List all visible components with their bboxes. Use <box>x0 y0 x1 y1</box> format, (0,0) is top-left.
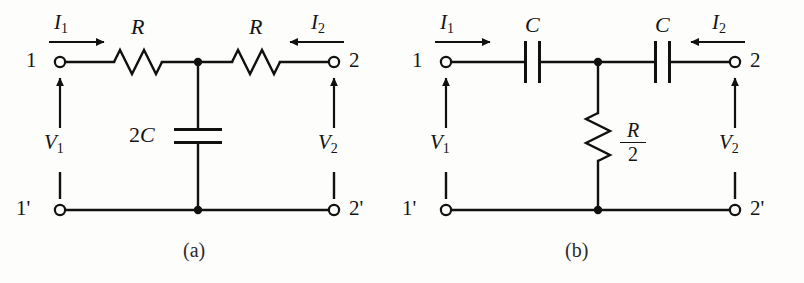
current-label-b-i1-symbol: I <box>440 10 447 34</box>
capacitor-label-b-left: C <box>525 14 540 36</box>
terminal-label-a-2: 2 <box>349 50 360 71</box>
junction-a-top <box>194 58 202 66</box>
current-label-b-i2: I2 <box>712 12 726 33</box>
voltage-label-a-v1: V1 <box>44 132 64 153</box>
voltage-label-b-v2-symbol: V <box>719 130 732 154</box>
terminal-label-b-1: 1 <box>412 50 423 71</box>
circuit-a-group <box>49 42 344 215</box>
terminal-a-1 <box>55 57 65 67</box>
terminal-b-2 <box>730 57 740 67</box>
voltage-label-a-v2-subscript: 2 <box>331 141 338 156</box>
voltage-label-b-v2-subscript: 2 <box>732 141 739 156</box>
terminal-b-1-prime <box>441 205 451 215</box>
terminal-a-2-prime <box>329 205 339 215</box>
capacitor-label-a-symbol: C <box>140 122 155 147</box>
voltage-label-b-v1-symbol: V <box>430 130 443 154</box>
voltage-label-b-v1-subscript: 1 <box>443 141 450 156</box>
capacitor-label-a: 2C <box>129 124 155 146</box>
current-label-b-i2-subscript: 2 <box>719 21 726 36</box>
current-label-a-i2: I2 <box>311 12 325 33</box>
terminal-b-2-prime <box>730 205 740 215</box>
resistor-label-b-shunt: R 2 <box>620 120 646 165</box>
voltage-label-a-v2: V2 <box>318 132 338 153</box>
terminal-b-1 <box>441 57 451 67</box>
capacitor-label-a-coefficient: 2 <box>129 122 140 147</box>
voltage-label-a-v1-subscript: 1 <box>57 141 64 156</box>
resistor-label-b-numerator: R <box>620 120 646 141</box>
terminal-label-a-1-prime: 1' <box>16 198 30 219</box>
resistor-label-a-left: R <box>131 16 144 38</box>
voltage-label-a-v1-symbol: V <box>44 130 57 154</box>
current-label-a-i2-symbol: I <box>311 10 318 34</box>
terminal-label-b-2: 2 <box>750 50 761 71</box>
junction-b-top <box>594 58 602 66</box>
current-label-b-i2-symbol: I <box>712 10 719 34</box>
circuit-artwork <box>0 0 804 283</box>
circuit-figure: 1 2 1' 2' I1 I2 V1 V2 R R 2C (a) 1 2 1' … <box>0 0 804 283</box>
terminal-label-a-1: 1 <box>26 50 37 71</box>
current-label-a-i2-subscript: 2 <box>318 21 325 36</box>
voltage-label-b-v2: V2 <box>719 132 739 153</box>
junction-b-bottom <box>594 206 602 214</box>
current-label-b-i1-subscript: 1 <box>447 21 454 36</box>
voltage-label-a-v2-symbol: V <box>318 130 331 154</box>
resistor-a-right-body <box>232 50 280 74</box>
circuit-b-group <box>435 41 745 215</box>
terminal-a-1-prime <box>55 205 65 215</box>
resistor-label-b-denominator: 2 <box>620 144 646 165</box>
resistor-a-left-body <box>114 50 162 74</box>
current-label-a-i1: I1 <box>54 12 68 33</box>
current-label-a-i1-symbol: I <box>54 10 61 34</box>
caption-a: (a) <box>183 240 205 260</box>
terminal-label-b-2-prime: 2' <box>750 198 764 219</box>
capacitor-label-b-right: C <box>655 14 670 36</box>
terminal-a-2 <box>329 57 339 67</box>
voltage-label-b-v1: V1 <box>430 132 450 153</box>
caption-b: (b) <box>565 240 588 260</box>
resistor-label-a-right: R <box>249 16 262 38</box>
junction-a-bottom <box>194 206 202 214</box>
current-label-b-i1: I1 <box>440 12 454 33</box>
terminal-label-b-1-prime: 1' <box>402 198 416 219</box>
current-label-a-i1-subscript: 1 <box>61 21 68 36</box>
terminal-label-a-2-prime: 2' <box>349 198 363 219</box>
resistor-b-shunt-body <box>586 113 610 161</box>
